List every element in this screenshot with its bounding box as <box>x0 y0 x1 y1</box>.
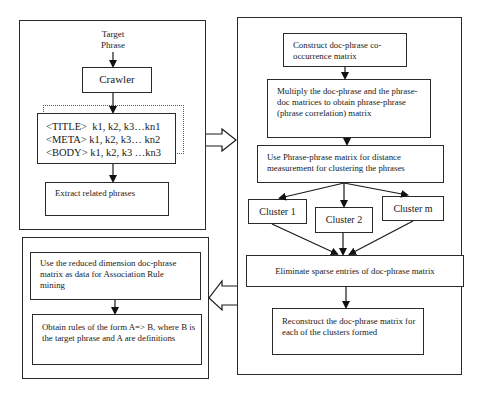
hollow-arrow-left-icon <box>209 281 237 310</box>
arrow-distance-to-clusterm <box>344 183 407 195</box>
hollow-arrow-right-icon <box>206 129 236 151</box>
arrow-cluster1-to-eliminate <box>272 224 337 254</box>
connector-layer <box>0 0 479 393</box>
arrow-distance-to-cluster1 <box>280 183 344 198</box>
arrow-clusterm-to-eliminate <box>350 221 413 254</box>
